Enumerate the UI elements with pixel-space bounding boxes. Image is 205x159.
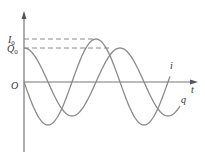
q0-label: Q0 [7,43,18,56]
q-curve-label: q [181,94,186,105]
i-curve-label: i [170,60,173,71]
origin-label: O [11,80,18,91]
t-axis-label: t [191,84,194,95]
y-axis-arrow-icon [22,11,27,19]
lc-oscillation-diagram: I0 Q0 O t i q [0,0,205,159]
